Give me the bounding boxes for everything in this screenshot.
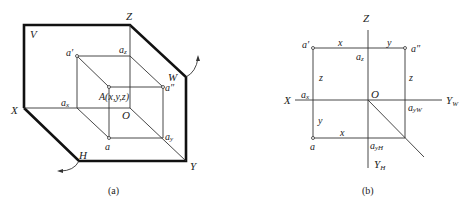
label-H: H: [78, 149, 88, 161]
label-a-double-prime: a″: [165, 82, 175, 93]
projection-diagram: V Z W X H Y O a′ az a″ ax ay a A(x,y,z) …: [0, 0, 469, 208]
label-O-b: O: [371, 88, 379, 100]
ax-to-a: [77, 108, 109, 138]
point-a-double-prime-b: [404, 47, 407, 50]
label-a-double-prime-b: a″: [411, 43, 421, 54]
label-X-b: X: [283, 94, 292, 106]
label-Z: Z: [126, 10, 133, 22]
label-ax-b: ax: [301, 89, 310, 101]
point-a-prime: [76, 55, 79, 58]
label-YH: YH: [374, 158, 386, 172]
caption-a: (a): [108, 185, 119, 197]
label-YW: YW: [446, 94, 459, 108]
label-a-b: a: [310, 141, 315, 152]
point-a: [108, 137, 111, 140]
point-a-b: [312, 137, 315, 140]
label-az-b: az: [356, 51, 364, 63]
label-ax: ax: [61, 97, 70, 109]
label-ayw: ayW: [408, 102, 423, 114]
label-V: V: [30, 28, 38, 40]
label-ayh: ayH: [370, 140, 384, 152]
label-X: X: [10, 104, 19, 116]
label-a: a: [105, 141, 110, 152]
label-a-prime-b: a′: [302, 39, 310, 50]
label-Z-b: Z: [363, 12, 370, 24]
dim-y-top: y: [386, 37, 392, 48]
label-a-prime: a′: [66, 47, 74, 58]
point-A: [108, 86, 111, 89]
az-to-a-double-prime: [130, 56, 163, 87]
point-a-prime-b: [312, 47, 315, 50]
figure-a: V Z W X H Y O a′ az a″ ax ay a A(x,y,z) …: [10, 10, 200, 197]
label-A: A(x,y,z): [98, 91, 130, 103]
dim-y-left: y: [317, 115, 323, 126]
label-az: az: [119, 44, 127, 56]
y-axis: [130, 108, 186, 161]
figure-b: Z X O YW YH a′ a″ a az ax ayW ayH x y z …: [283, 12, 459, 197]
dim-x-bottom: x: [339, 127, 345, 138]
dim-z-left: z: [318, 72, 323, 83]
dim-z-right: z: [408, 72, 413, 83]
w-arrowhead-icon: [196, 55, 200, 61]
label-Y: Y: [190, 160, 198, 172]
a-prime-to-A: [77, 56, 109, 87]
caption-b: (b): [362, 185, 374, 197]
label-ay: ay: [165, 131, 174, 143]
dim-x-top: x: [337, 37, 343, 48]
h-arrowhead-icon: [57, 169, 63, 173]
label-O: O: [122, 109, 130, 121]
